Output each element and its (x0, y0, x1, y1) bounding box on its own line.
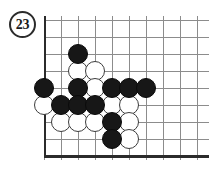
figure-number-label: 23 (16, 18, 29, 32)
black-stone (102, 129, 122, 149)
go-stone-layer (44, 16, 209, 160)
figure-number-badge: 23 (9, 11, 36, 38)
go-diagram-root: 23 (0, 0, 216, 170)
white-stone (119, 129, 139, 149)
go-board (44, 16, 209, 160)
black-stone (68, 44, 88, 64)
black-stone (34, 78, 54, 98)
black-stone (85, 95, 105, 115)
black-stone (136, 78, 156, 98)
